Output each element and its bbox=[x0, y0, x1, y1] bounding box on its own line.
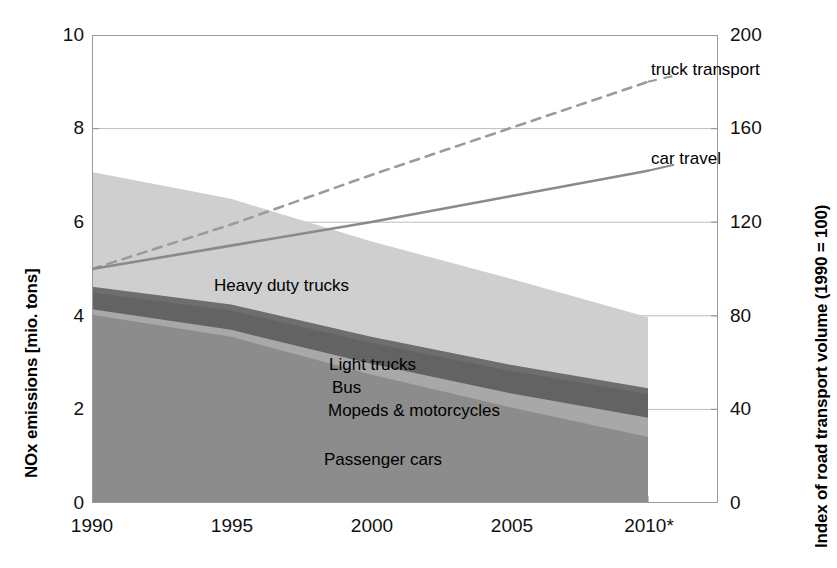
chart-canvas: NOx emissions [mio. tons] Index of road … bbox=[0, 0, 837, 568]
line-label-truck-transport: truck transport bbox=[651, 60, 760, 80]
y-axis-left-tick-10: 10 bbox=[38, 24, 84, 46]
series-label-mopeds-motorcycles: Mopeds & motorcycles bbox=[328, 401, 500, 421]
line-label-car-travel: car travel bbox=[651, 149, 721, 169]
y-axis-left-tick-2: 2 bbox=[38, 398, 84, 420]
y-axis-right-tick-0: 0 bbox=[730, 492, 790, 514]
y-axis-left-tick-4: 4 bbox=[38, 305, 84, 327]
y-axis-right-title: Index of road transport volume (1990 = 1… bbox=[812, 205, 832, 548]
series-label-bus: Bus bbox=[332, 378, 361, 398]
y-axis-right-tick-200: 200 bbox=[730, 24, 790, 46]
y-axis-right-tick-40: 40 bbox=[730, 398, 790, 420]
series-label-heavy-duty-trucks: Heavy duty trucks bbox=[214, 276, 349, 296]
y-axis-left-tick-6: 6 bbox=[38, 211, 84, 233]
y-axis-left-title: NOx emissions [mio. tons] bbox=[22, 269, 42, 478]
y-axis-right-tick-160: 160 bbox=[730, 117, 790, 139]
plot-area: Heavy duty trucks Light trucks Bus Moped… bbox=[92, 35, 718, 503]
series-label-passenger-cars: Passenger cars bbox=[324, 450, 442, 470]
x-axis-tick-2005: 2005 bbox=[467, 515, 557, 537]
y-axis-right-tick-120: 120 bbox=[730, 211, 790, 233]
x-axis-tick-1990: 1990 bbox=[47, 515, 137, 537]
y-axis-left-tick-8: 8 bbox=[38, 117, 84, 139]
y-axis-right-tick-80: 80 bbox=[730, 305, 790, 327]
y-axis-left-tick-0: 0 bbox=[38, 492, 84, 514]
x-axis-tick-2010: 2010* bbox=[604, 515, 694, 537]
plot-svg bbox=[92, 35, 718, 503]
series-label-light-trucks: Light trucks bbox=[329, 355, 416, 375]
x-axis-tick-1995: 1995 bbox=[187, 515, 277, 537]
x-axis-tick-2000: 2000 bbox=[327, 515, 417, 537]
